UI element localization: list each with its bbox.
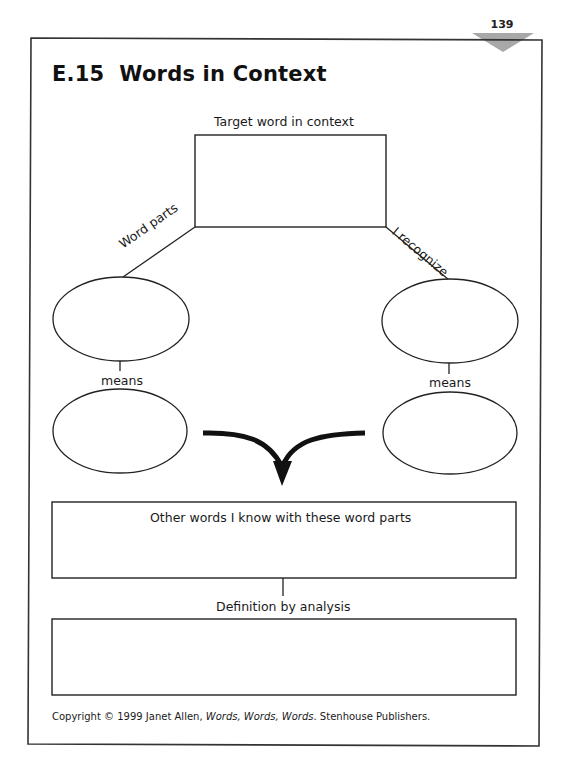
merge-arrow-icon	[203, 433, 365, 486]
page-tab-triangle-icon	[472, 33, 534, 52]
page-number: 139	[484, 18, 520, 31]
left-means-label: means	[101, 373, 143, 388]
book-title: Words, Words, Words	[206, 711, 314, 722]
copyright-prefix: Copyright © 1999 Janet Allen,	[52, 711, 206, 722]
definition-label: Definition by analysis	[216, 599, 350, 614]
left-means-ellipse[interactable]	[53, 389, 187, 473]
right-means-ellipse[interactable]	[383, 392, 517, 474]
target-word-box[interactable]	[195, 135, 386, 227]
target-word-label: Target word in context	[214, 114, 354, 129]
copyright-notice: Copyright © 1999 Janet Allen, Words, Wor…	[52, 711, 430, 722]
right-means-label: means	[429, 375, 471, 390]
word-parts-ellipse[interactable]	[53, 277, 189, 361]
definition-box[interactable]	[52, 619, 516, 695]
other-words-label: Other words I know with these word parts	[150, 510, 411, 525]
recognize-ellipse[interactable]	[382, 279, 518, 363]
page-title: E.15 Words in Context	[52, 62, 327, 86]
copyright-suffix: . Stenhouse Publishers.	[314, 711, 431, 722]
